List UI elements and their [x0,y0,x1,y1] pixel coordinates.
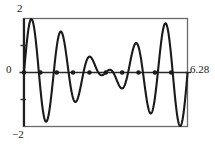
y-axis-zero-label: 0 [6,63,12,75]
zero-crossing-marker [120,70,125,75]
zero-crossing-marker [104,70,109,75]
zero-crossing-marker [87,70,92,75]
chart-figure: 2 0 −2 6.28 [0,0,215,150]
x-axis-max-label: 6.28 [190,63,209,75]
zero-crossing-marker [136,70,141,75]
zero-crossing-marker [71,70,76,75]
zero-crossing-marker [38,70,43,75]
zero-crossing-marker [153,70,158,75]
zero-crossing-marker [169,70,174,75]
zero-crossing-marker [22,70,27,75]
zero-crossing-marker [54,70,59,75]
plot-area [0,0,215,150]
y-axis-min-label: −2 [12,128,24,140]
y-axis-max-label: 2 [17,2,23,14]
